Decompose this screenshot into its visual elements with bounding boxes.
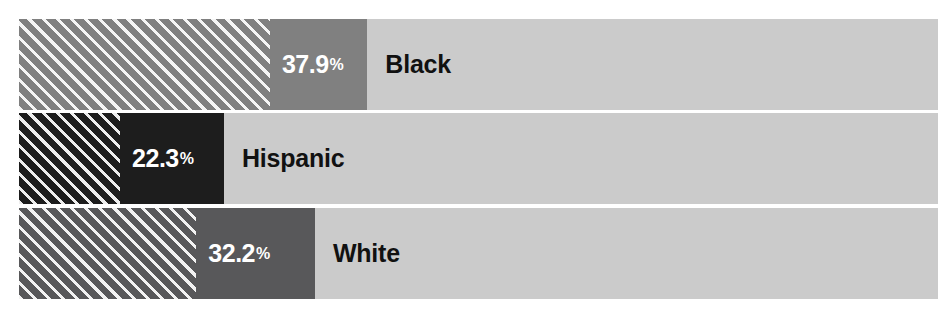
bar-row-white[interactable]: 32.2% White [19,208,938,299]
percent-sign-black: % [330,56,344,74]
percent-sign-hispanic: % [180,150,194,168]
chart-title-fragment [170,0,230,3]
bar-row-black[interactable]: 37.9% Black [19,19,938,110]
bar-hatch-white [19,208,196,299]
bar-hatch-hispanic [19,113,120,204]
bar-category-label-white: White [333,208,400,299]
bar-value-label-white: 32.2% [208,208,269,299]
bar-value-number-hispanic: 22.3 [132,144,179,173]
bar-value-number-white: 32.2 [208,239,255,268]
bar-value-number-black: 37.9 [282,50,329,79]
bar-hatch-black [19,19,270,110]
bar-value-label-black: 37.9% [282,19,343,110]
percent-sign-white: % [256,245,270,263]
bar-row-hispanic[interactable]: 22.3% Hispanic [19,113,938,204]
bar-value-label-hispanic: 22.3% [132,113,193,204]
stacked-bar-chart: 37.9% Black 22.3% Hispanic 32.2% White [0,0,951,324]
bar-category-label-hispanic: Hispanic [242,113,345,204]
bar-category-label-black: Black [385,19,451,110]
